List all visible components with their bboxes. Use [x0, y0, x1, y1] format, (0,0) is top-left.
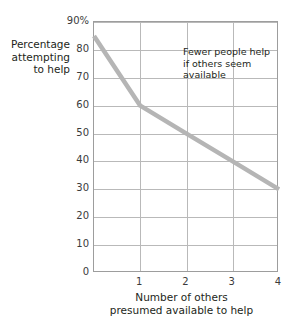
annotation-line-1: Fewer people help	[183, 46, 287, 58]
plot-inner: Fewer people help if others seem availab…	[94, 22, 277, 271]
y-tick-label: 90%	[55, 16, 89, 26]
annotation-line-3: available	[183, 69, 287, 81]
y-tick-label: 70	[55, 72, 89, 82]
x-tick-label: 3	[222, 276, 242, 287]
y-tick-label: 30	[55, 183, 89, 193]
y-tick-label: 50	[55, 128, 89, 138]
x-axis-tick-labels: 1 2 3 4	[93, 276, 278, 290]
plot-area: Fewer people help if others seem availab…	[93, 21, 278, 272]
x-tick-label: 1	[129, 276, 149, 287]
x-tick-label: 4	[268, 276, 288, 287]
y-tick-label: 60	[55, 100, 89, 110]
x-axis-title-line-1: Number of others	[74, 291, 289, 304]
y-tick-label: 10	[55, 239, 89, 249]
y-tick-label: 80	[55, 44, 89, 54]
y-tick-label: 0	[55, 267, 89, 277]
x-tick-label: 2	[176, 276, 196, 287]
x-axis-title-line-2: presumed available to help	[74, 304, 289, 317]
y-tick-label: 20	[55, 211, 89, 221]
annotation-line-2: if others seem	[183, 58, 287, 70]
y-axis-tick-labels: 90% 80 70 60 50 40 30 20 10 0	[53, 21, 89, 272]
y-tick-label: 40	[55, 155, 89, 165]
x-axis-title: Number of others presumed available to h…	[74, 291, 289, 316]
chart-annotation: Fewer people help if others seem availab…	[183, 46, 287, 81]
